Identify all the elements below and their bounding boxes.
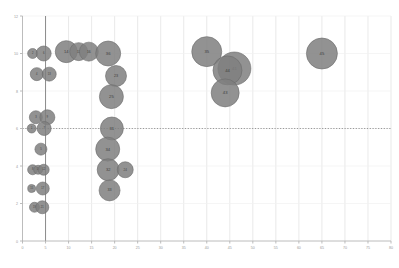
bubble-chart: 024681012 051015202530354045505560657075… — [0, 0, 399, 268]
bubble-label: 44 — [225, 68, 230, 73]
bubble: 31 — [100, 117, 123, 140]
bubble: 32 — [97, 159, 119, 181]
x-tick-label: 25 — [136, 246, 140, 250]
x-tick-label: 45 — [228, 246, 232, 250]
y-axis-ticks: 024681012 — [14, 15, 23, 244]
bubble-label: 31 — [110, 126, 115, 131]
bubble-label: 25 — [109, 94, 114, 99]
bubble: 1 — [27, 124, 36, 133]
bubble: 45 — [306, 38, 337, 69]
bubble: 34 — [96, 137, 120, 161]
bubble-label: 35 — [204, 49, 209, 54]
x-tick-label: 0 — [22, 246, 24, 250]
x-tick-label: 30 — [159, 246, 163, 250]
x-tick-label: 10 — [67, 246, 71, 250]
x-tick-label: 55 — [274, 246, 278, 250]
bubble-label: 45 — [320, 51, 325, 56]
bubble-label: 16 — [87, 50, 91, 54]
y-tick-label: 8 — [16, 90, 18, 94]
bubble-label: 36 — [106, 51, 111, 56]
bubble: 25 — [99, 85, 123, 109]
bubble: 23 — [106, 66, 127, 87]
x-tick-label: 15 — [90, 246, 94, 250]
bubble: 7 — [37, 122, 51, 136]
bubble-label: 43 — [223, 90, 228, 95]
x-tick-label: 70 — [343, 246, 347, 250]
x-tick-label: 75 — [366, 246, 370, 250]
bubble: 12 — [38, 164, 49, 175]
x-axis-ticks: 05101520253035404550556065707580 — [22, 241, 394, 250]
bubble-series: 2614111636413232539173153481012322415173… — [27, 37, 337, 214]
bubble: 6 — [36, 46, 51, 61]
bubble-label: 23 — [114, 74, 118, 78]
bubble: 43 — [211, 79, 239, 107]
y-tick-label: 6 — [16, 127, 18, 131]
y-tick-label: 4 — [16, 165, 18, 169]
y-tick-label: 12 — [14, 15, 18, 19]
bubble-label: 24 — [124, 168, 128, 172]
bubble: 15 — [28, 185, 36, 193]
x-tick-label: 35 — [182, 246, 186, 250]
x-tick-label: 40 — [205, 246, 209, 250]
plot-area: 024681012 051015202530354045505560657075… — [0, 0, 399, 268]
bubble: 33 — [99, 180, 120, 201]
bubble: 16 — [79, 42, 98, 61]
bubble: 17 — [36, 182, 49, 195]
bubble: 36 — [96, 41, 121, 66]
y-tick-label: 2 — [16, 202, 18, 206]
bubble: 4 — [30, 68, 43, 81]
x-tick-label: 5 — [45, 246, 47, 250]
bubble-label: 34 — [105, 147, 110, 152]
bubble: 21 — [36, 201, 49, 214]
bubble: 24 — [117, 162, 133, 178]
bubble-label: 33 — [107, 188, 111, 192]
x-tick-label: 50 — [251, 246, 255, 250]
x-tick-label: 65 — [320, 246, 324, 250]
x-tick-label: 20 — [113, 246, 117, 250]
x-tick-label: 80 — [389, 246, 393, 250]
x-tick-label: 60 — [297, 246, 301, 250]
y-tick-label: 0 — [16, 240, 18, 244]
bubble: 5 — [35, 143, 47, 155]
bubble-label: 32 — [106, 167, 110, 172]
bubble: 13 — [42, 67, 56, 81]
y-tick-label: 10 — [14, 52, 18, 56]
